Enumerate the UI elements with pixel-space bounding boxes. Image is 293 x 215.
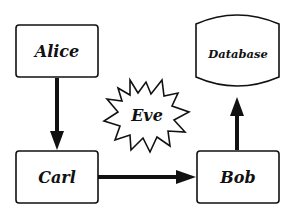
node-database-label: Database	[207, 47, 267, 61]
node-carl-label: Carl	[38, 168, 76, 187]
edge-carl-to-bob	[98, 170, 196, 184]
node-bob[interactable]: Bob	[197, 151, 279, 203]
arrowhead-icon	[50, 131, 64, 150]
node-eve[interactable]: Eve	[104, 80, 189, 152]
node-alice-label: Alice	[33, 42, 80, 61]
edge-bob-to-database	[230, 97, 244, 150]
node-eve-label: Eve	[130, 106, 163, 125]
node-alice[interactable]: Alice	[16, 25, 98, 77]
edge-alice-to-carl	[50, 78, 64, 150]
node-bob-label: Bob	[219, 168, 255, 187]
diagram-svg: Alice Carl Bob Database Eve	[0, 0, 293, 215]
diagram-canvas: Alice Carl Bob Database Eve	[0, 0, 293, 215]
node-carl[interactable]: Carl	[16, 151, 98, 203]
node-database[interactable]: Database	[196, 15, 279, 86]
arrowhead-icon	[230, 97, 244, 116]
arrowhead-icon	[176, 170, 196, 184]
